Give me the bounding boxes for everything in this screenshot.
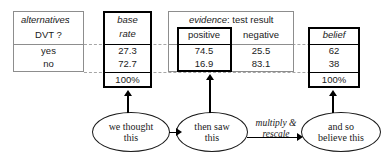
alternatives-header-colon: : [67, 14, 75, 27]
evidence-header-label: evidence [182, 14, 227, 27]
arrow-node1-to-base-rate-head [124, 90, 132, 96]
arrow-node1-to-base-rate-shaft [127, 96, 128, 113]
flow-node-then-saw-this[interactable]: then saw this [176, 112, 248, 152]
flow-node-1-line1: we thought [103, 121, 160, 132]
edge-label-multiply-rescale: multiply & rescale [248, 118, 304, 140]
alternatives-row-no: no [13, 58, 84, 71]
base-rate-header-line2: rate [103, 28, 152, 41]
alternatives-header-question: DVT ? [13, 29, 84, 42]
belief-value-no: 38 [308, 58, 360, 71]
belief-value-yes: 62 [308, 45, 360, 58]
base-rate-total: 100% [103, 74, 152, 87]
evidence-negative-yes: 25.5 [232, 45, 290, 58]
base-rate-value-no: 72.7 [103, 58, 152, 71]
flow-node-1-line2: this [103, 132, 160, 143]
edge-label-line2: rescale [262, 129, 289, 139]
base-rate-header-line1: base [103, 14, 152, 27]
flow-node-and-so-believe-this[interactable]: and so believe this [301, 112, 381, 152]
belief-total: 100% [308, 74, 360, 87]
diagram-canvas: alternatives : DVT ? yes no base rate 27… [0, 0, 382, 163]
evidence-positive-header-rule [177, 44, 232, 45]
arrow-node3-to-belief-head [329, 90, 337, 96]
arrow-node2-to-evidence-shaft [209, 80, 210, 113]
base-rate-total-rule [103, 72, 152, 73]
evidence-column-negative-header: negative [232, 29, 290, 42]
flow-node-we-thought-this[interactable]: we thought this [92, 112, 170, 152]
base-rate-value-yes: 27.3 [103, 45, 152, 58]
belief-header: belief [308, 29, 360, 42]
evidence-negative-no: 83.1 [232, 58, 290, 71]
flow-node-3-line2: believe this [312, 132, 370, 143]
arrow-node2-to-evidence-head [206, 74, 214, 80]
edge-label-line1: multiply & [256, 118, 297, 128]
flow-node-2-line1: then saw [188, 121, 235, 132]
arrow-node3-to-belief-shaft [332, 96, 333, 113]
arrow-node1-to-node2-head [176, 128, 182, 136]
belief-total-rule [308, 72, 360, 73]
flow-node-2-line2: this [188, 132, 235, 143]
evidence-header-rest: : test result [227, 14, 289, 27]
evidence-positive-column-highlight [177, 27, 232, 72]
alternatives-row-yes: yes [13, 45, 84, 58]
flow-node-3-line1: and so [312, 121, 370, 132]
